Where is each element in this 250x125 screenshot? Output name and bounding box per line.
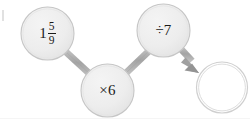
diagram-canvas: 1 5 9 ×6 ÷7 [0, 0, 250, 125]
divide-operation-node[interactable] [137, 4, 190, 57]
connector-multiply-to-divide [126, 50, 150, 73]
multiply-operation-node[interactable] [81, 64, 134, 117]
function-machine-diagram [0, 0, 250, 125]
result-answer-node[interactable] [197, 62, 248, 113]
start-value-node[interactable] [21, 7, 74, 60]
connector-divide-to-result [180, 48, 199, 73]
